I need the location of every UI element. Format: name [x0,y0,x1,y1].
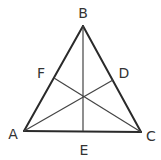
side-ab [24,26,83,131]
label-c: C [146,128,156,144]
side-bc [83,26,141,132]
triangle-diagram: B A C E F D [0,0,161,160]
label-e: E [80,142,89,158]
label-b: B [78,5,88,21]
label-f: F [37,65,45,81]
side-ca [24,131,141,132]
median-cf [54,78,141,132]
label-d: D [119,65,130,81]
label-a: A [8,126,18,142]
